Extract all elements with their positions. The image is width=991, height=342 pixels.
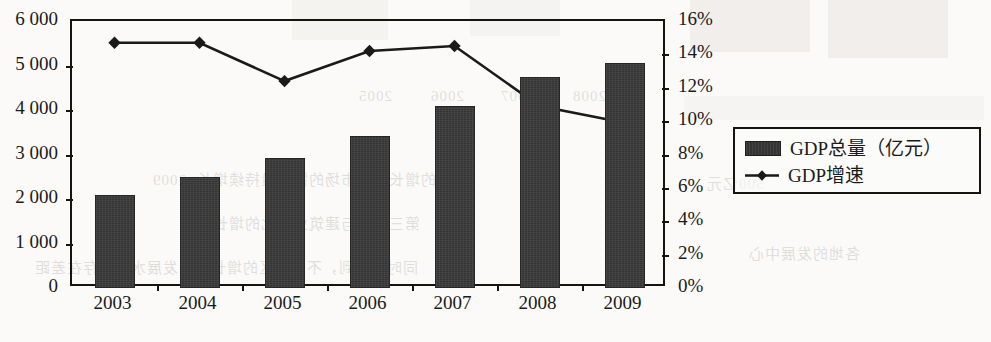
growth-marker-2006: [363, 45, 375, 57]
x-axis-tick: [497, 284, 499, 291]
left-axis-tick: [66, 244, 73, 246]
x-axis-label-2004: 2004: [158, 292, 238, 314]
right-axis-label-12: 12%: [678, 76, 713, 95]
x-axis-label-2008: 2008: [498, 292, 578, 314]
bar-2008: [520, 77, 560, 288]
x-axis-tick: [582, 284, 584, 291]
right-axis-label-10: 10%: [678, 109, 713, 128]
right-axis-tick: [662, 54, 669, 56]
left-axis-label-1000: 1 000: [0, 232, 58, 251]
right-axis-label-6: 6%: [678, 176, 703, 195]
bar-2003: [95, 195, 135, 288]
left-axis-tick: [66, 199, 73, 201]
left-axis-tick: [66, 110, 73, 112]
x-axis-label-2009: 2009: [583, 292, 663, 314]
left-axis-label-5000: 5 000: [0, 54, 58, 73]
growth-marker-2004: [193, 36, 205, 48]
x-axis-tick: [242, 284, 244, 291]
gdp-chart-figure: 01 0002 0003 0004 0005 0006 0000%2%4%6%8…: [0, 0, 991, 342]
growth-marker-2003: [108, 36, 120, 48]
bar-2004: [180, 177, 220, 288]
right-axis-tick: [662, 221, 669, 223]
diamond-line-swatch-icon: [745, 169, 779, 182]
x-axis-tick: [327, 284, 329, 291]
left-axis-label-4000: 4 000: [0, 98, 58, 117]
right-axis-tick: [662, 121, 669, 123]
x-axis-label-2007: 2007: [413, 292, 493, 314]
x-axis-label-2006: 2006: [328, 292, 408, 314]
x-axis-label-2003: 2003: [73, 292, 153, 314]
bar-2006: [350, 136, 390, 288]
right-axis-tick: [662, 188, 669, 190]
x-axis-tick: [157, 284, 159, 291]
chart-legend: GDP总量（亿元） GDP增速: [733, 127, 981, 194]
legend-item-gdp-total: GDP总量（亿元）: [745, 135, 969, 162]
x-axis-label-2005: 2005: [243, 292, 323, 314]
bar-2007: [435, 106, 475, 288]
x-axis-tick: [412, 284, 414, 291]
legend-label-gdp-growth: GDP增速: [788, 166, 864, 185]
growth-marker-2005: [278, 75, 290, 87]
right-axis-tick: [662, 88, 669, 90]
right-axis-label-4: 4%: [678, 209, 703, 228]
left-axis-label-2000: 2 000: [0, 187, 58, 206]
plot-area: [70, 19, 665, 286]
right-axis-label-8: 8%: [678, 143, 703, 162]
left-axis-label-6000: 6 000: [0, 9, 58, 28]
left-axis-tick: [66, 155, 73, 157]
legend-item-gdp-growth: GDP增速: [745, 162, 969, 189]
right-axis-tick: [662, 155, 669, 157]
right-axis-label-0: 0%: [678, 276, 703, 295]
bar-2005: [265, 158, 305, 288]
right-axis-label-14: 14%: [678, 42, 713, 61]
legend-label-gdp-total: GDP总量（亿元）: [790, 139, 942, 158]
left-axis-label-3000: 3 000: [0, 143, 58, 162]
right-axis-label-2: 2%: [678, 243, 703, 262]
bar-swatch-icon: [745, 141, 781, 156]
left-axis-tick: [66, 66, 73, 68]
right-axis-tick: [662, 255, 669, 257]
right-axis-label-16: 16%: [678, 9, 713, 28]
left-axis-label-0: 0: [0, 276, 58, 295]
bar-2009: [605, 63, 645, 288]
